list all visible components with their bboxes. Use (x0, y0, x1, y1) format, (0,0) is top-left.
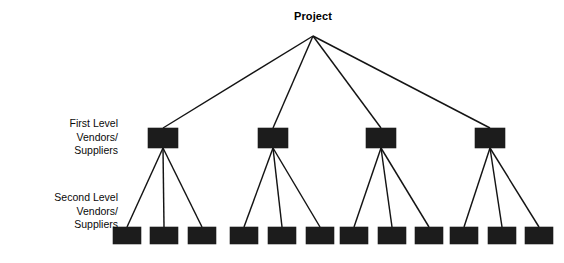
second-level-node-2 (150, 227, 178, 244)
root-node-label: Project (294, 10, 332, 22)
branch-edge-2 (163, 148, 164, 227)
second-level-node-11 (488, 227, 516, 244)
branch-edge-9 (381, 148, 429, 227)
second-level-node-12 (525, 227, 553, 244)
second-level-node-10 (450, 227, 478, 244)
second-level-node-7 (340, 227, 368, 244)
first-level-label-line-0: First Level (0, 117, 118, 131)
second-level-node-9 (415, 227, 443, 244)
root-edge-3 (313, 36, 381, 128)
second-level-node-8 (378, 227, 406, 244)
branch-edge-11 (490, 148, 502, 227)
second-level-label-line-1: Vendors/ (0, 205, 118, 219)
branch-edge-10 (464, 148, 490, 227)
first-level-label: First LevelVendors/Suppliers (0, 117, 118, 158)
root-edge-4 (313, 36, 490, 128)
second-level-label-line-0: Second Level (0, 191, 118, 205)
second-level-node-5 (268, 227, 296, 244)
first-level-label-line-1: Vendors/ (0, 131, 118, 145)
level1-edges-group (127, 148, 539, 227)
branch-edge-12 (490, 148, 539, 227)
branch-edge-8 (381, 148, 392, 227)
branch-edge-7 (354, 148, 381, 227)
first-level-node-2 (258, 128, 288, 148)
branch-edge-4 (244, 148, 273, 227)
branch-edge-1 (127, 148, 163, 227)
root-edge-2 (273, 36, 313, 128)
level2-nodes-group (113, 227, 553, 244)
first-level-node-1 (148, 128, 178, 148)
first-level-label-line-2: Suppliers (0, 144, 118, 158)
second-level-node-3 (188, 227, 216, 244)
root-edge-1 (163, 36, 313, 128)
second-level-node-6 (306, 227, 334, 244)
first-level-node-4 (475, 128, 505, 148)
second-level-label-line-2: Suppliers (0, 218, 118, 232)
second-level-node-4 (230, 227, 258, 244)
root-edges-group (163, 36, 490, 128)
diagram-canvas: Project First LevelVendors/Suppliers Sec… (0, 0, 564, 263)
second-level-label: Second LevelVendors/Suppliers (0, 191, 118, 232)
first-level-node-3 (366, 128, 396, 148)
level1-nodes-group (148, 128, 505, 148)
branch-edge-3 (163, 148, 202, 227)
